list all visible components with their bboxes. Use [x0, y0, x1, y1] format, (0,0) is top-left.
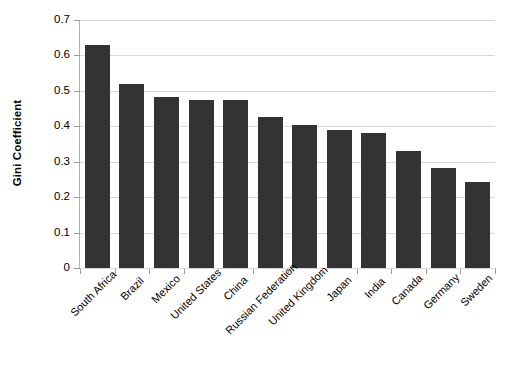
y-axis-tick-label: 0.4: [30, 120, 70, 132]
y-axis-tick-labels: 0.70.60.50.40.30.20.10: [26, 0, 70, 290]
y-axis-tick-label: 0.3: [30, 156, 70, 168]
x-axis-tick-mark: [80, 269, 81, 274]
y-axis-tick-mark: [74, 126, 80, 127]
x-axis-category-label: South Africa: [68, 268, 118, 318]
bar: [85, 45, 110, 268]
x-axis-category-label: Germany: [421, 271, 461, 311]
bar: [396, 151, 421, 268]
y-axis-title-label: Gini Coefficient: [11, 99, 23, 186]
x-axis-tick-mark: [253, 269, 254, 274]
y-axis-tick-mark: [74, 20, 80, 21]
bar: [327, 130, 352, 268]
x-axis-tick-mark: [391, 269, 392, 274]
x-axis-tick-mark: [149, 269, 150, 274]
x-axis-tick-mark: [357, 269, 358, 274]
gridline: [80, 55, 495, 56]
bar: [292, 125, 317, 268]
gini-coefficient-bar-chart: Gini Coefficient 0.70.60.50.40.30.20.10 …: [0, 0, 515, 390]
x-axis-tick-mark: [184, 269, 185, 274]
y-axis-tick-mark: [74, 233, 80, 234]
x-axis-tick-mark: [288, 269, 289, 274]
x-axis-category-label: China: [221, 274, 250, 303]
x-axis-category-label: Mexico: [149, 273, 182, 306]
x-axis-tick-mark: [322, 269, 323, 274]
bar: [223, 100, 248, 268]
bar: [431, 168, 456, 268]
x-axis-category-label: India: [362, 275, 387, 300]
x-axis-tick-mark: [218, 269, 219, 274]
x-axis-category-label: Japan: [324, 274, 354, 304]
y-axis-tick-label: 0.7: [30, 14, 70, 26]
bar: [154, 97, 179, 268]
y-axis-tick-mark: [74, 197, 80, 198]
x-axis-tick-mark: [115, 269, 116, 274]
y-axis-tick-mark: [74, 55, 80, 56]
x-axis-tick-mark: [426, 269, 427, 274]
y-axis-tick-mark: [74, 162, 80, 163]
x-axis-category-label: Sweden: [458, 272, 495, 309]
bar: [465, 182, 490, 268]
plot-area: [80, 20, 495, 268]
x-axis-category-label: United States: [168, 266, 223, 321]
x-axis-tick-mark: [495, 269, 496, 274]
y-axis-tick-label: 0: [30, 262, 70, 274]
bar: [258, 117, 283, 268]
y-axis-tick-mark: [74, 91, 80, 92]
x-axis-category-label: Canada: [389, 272, 425, 308]
x-axis-tick-mark: [460, 269, 461, 274]
x-axis-category-label: United Kingdom: [266, 264, 330, 328]
bar: [189, 100, 214, 268]
x-axis-category-label: Brazil: [118, 274, 146, 302]
y-axis-tick-label: 0.2: [30, 191, 70, 203]
y-axis-tick-label: 0.6: [30, 49, 70, 61]
y-axis-tick-label: 0.1: [30, 227, 70, 239]
gridline: [80, 20, 495, 21]
bar: [119, 84, 144, 268]
y-axis-tick-label: 0.5: [30, 85, 70, 97]
bar: [361, 133, 386, 268]
